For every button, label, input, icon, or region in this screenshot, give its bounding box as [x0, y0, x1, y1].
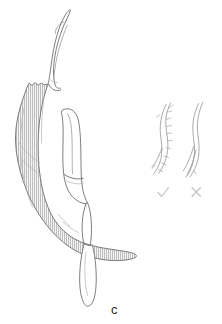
inner-segment [61, 109, 91, 246]
distal-lobe [80, 244, 97, 306]
check-icon [158, 188, 169, 197]
close-icon [192, 188, 201, 197]
apical-hook [48, 10, 70, 91]
figure-panel: c [0, 0, 222, 324]
panel-label: c [111, 303, 118, 316]
seta-smooth-detail [183, 102, 203, 197]
seta-barbed-detail [152, 103, 173, 197]
line-drawing-canvas [0, 0, 222, 324]
